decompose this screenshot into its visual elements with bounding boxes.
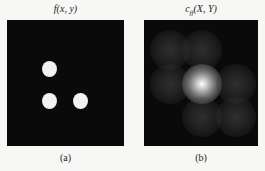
panel-a-image: [7, 20, 124, 146]
disk-1: [42, 61, 57, 77]
panel-b-image: [144, 20, 258, 146]
disk-3: [73, 93, 88, 109]
panel-a-title-text: f(x, y): [54, 3, 77, 14]
side-peak-7: [216, 97, 256, 137]
disk-2: [42, 93, 57, 109]
panel-b-caption: (b): [144, 152, 258, 163]
panel-b-title-args: (X, Y): [194, 3, 217, 14]
panel-b-title: cff(X, Y): [144, 3, 258, 17]
panel-a-title: f(x, y): [7, 3, 124, 14]
panel-a-caption: (a): [7, 152, 124, 163]
